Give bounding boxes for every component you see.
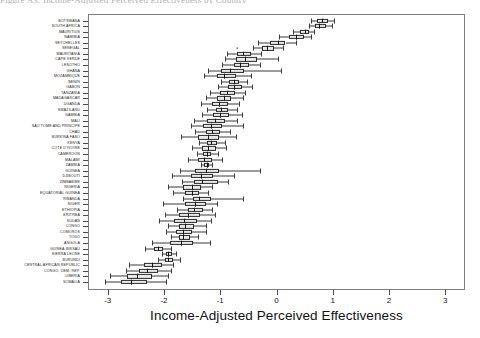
whisker-low [204,76,216,77]
whisker-low [188,159,198,160]
whisker-low [168,226,178,227]
whisker-low [172,176,191,177]
y-axis-label-cameroon: CAMEROON [58,152,80,156]
x-axis-tick-label: -1 [217,296,224,305]
y-axis-label-sudan: SUDAN [67,219,80,223]
y-axis-label-madagascar: MADAGASCAR [53,96,80,100]
whisker-low [227,53,237,54]
whisker-low [159,220,174,221]
y-axis-label-ghana: GHANA [66,69,80,73]
box-iqr [194,180,218,184]
y-axis-label-liberia: LIBERIA [65,274,80,278]
y-axis-label-ethiopia: ETHIOPIA [62,208,80,212]
whisker-high [162,265,173,266]
y-axis-label-gambia: GAMBIA [65,113,80,117]
whisker-low [152,243,170,244]
box-iqr [127,274,152,278]
box-iqr [234,63,250,67]
whisker-high [222,126,242,127]
box-iqr [193,196,211,200]
y-axis-label-south-africa: SOUTH AFRICA [52,24,80,28]
whisker-low [221,81,229,82]
whisker-high [213,176,233,177]
y-axis-label-sierra-leone: SIERRA LEONE [52,252,80,256]
x-axis-tick [389,290,390,295]
boxplot-series [88,14,465,290]
y-axis-label-cape-verde: CAPE VERDE [55,57,80,61]
y-axis-label-togo: TOGO [69,235,80,239]
box-iqr [315,24,326,28]
whisker-high [152,276,169,277]
x-axis-tick [277,290,278,295]
x-axis-tick-label: 0 [274,296,278,305]
y-axis-label-congo-dem-rep: CONGO, DEM. REP. [44,269,80,273]
whisker-low [168,187,183,188]
y-axis-label-somalia: SOMALIA [63,280,80,284]
y-axis-label-rwanda: RWANDA [63,197,80,201]
whisker-high [158,270,170,271]
whisker-low [171,237,179,238]
whisker-high [197,220,212,221]
x-axis-tick-label: 1 [331,296,335,305]
y-axis-label-kenya: KENYA [67,141,80,145]
whisker-high [251,53,261,54]
box-iqr [191,174,214,178]
cap-low [105,280,106,285]
whisker-low [180,170,196,171]
whisker-high [242,87,252,88]
y-axis-category-labels: BOTSWANASOUTH AFRICAMAURITIUSNAMIBIASEYC… [0,0,88,338]
box-iqr [228,85,242,89]
x-axis-tick [445,290,446,295]
y-axis-label-seychelles: SEYCHELLES [55,41,80,45]
whisker-low [253,48,262,49]
whisker-low [177,209,187,210]
whisker-low [218,87,228,88]
whisker-low [173,192,185,193]
whisker-high [219,137,236,138]
box-iqr [179,213,200,217]
whisker-high [225,120,237,121]
whisker-high [228,109,237,110]
box-iqr [176,230,192,234]
y-axis-label-nigeria: NIGERIA [64,185,80,189]
whisker-low [166,231,176,232]
whisker-high [211,154,218,155]
y-axis-label-gabon: GABON [66,85,80,89]
whisker-high [239,81,247,82]
whisker-high [194,226,205,227]
box-iqr [217,74,236,78]
y-axis-label-senegal: SENEGAL [62,46,80,50]
box-iqr [317,18,328,22]
y-axis-label-guinea-bissau: GUINEA-BISSAU [50,247,80,251]
y-axis-label-niger: NIGER [68,202,80,206]
y-axis-label-zambia: ZAMBIA [66,163,80,167]
whisker-high [235,92,245,93]
y-axis-label-swaziland: SWAZILAND [58,108,80,112]
y-axis-label-mozambique: MOZAMBIQUE [54,74,80,78]
whisker-high [200,215,215,216]
x-axis-tick-label: 3 [443,296,447,305]
whisker-high [219,170,260,171]
whisker-high [173,259,180,260]
box-iqr [174,219,197,223]
box-iqr [144,263,162,267]
whisker-high [274,48,283,49]
y-axis-label-botswana: BOTSWANA [58,19,80,23]
box-iqr [195,169,219,173]
whisker-high [206,204,217,205]
y-axis-label-burkina-faso: BURKINA FASO [52,135,80,139]
whisker-high [244,70,281,71]
x-axis-title: Income-Adjusted Perceived Effectiveness [88,308,465,323]
y-axis-label-s-o-tome-and-principe: SÃO TOME AND PRINCIPE [32,124,80,128]
figure-container: Figure A3. Income-Adjusted Perceived Eff… [0,0,480,338]
y-axis-label-zimbabwe: ZIMBABWE [60,180,80,184]
whisker-high [199,192,208,193]
y-axis-label-mauritius: MAURITIUS [59,30,80,34]
y-axis-label-mauritania: MAURITANIA [57,52,80,56]
whisker-high [211,198,243,199]
whisker-low [207,109,216,110]
box-iqr [188,208,204,212]
x-axis-tick [220,290,221,295]
box-iqr [139,269,158,273]
whisker-low [183,198,193,199]
